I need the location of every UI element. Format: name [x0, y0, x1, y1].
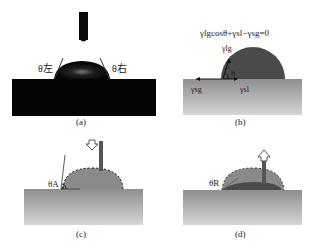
caption-a: (a): [76, 117, 86, 127]
theta-r-label: θR: [209, 178, 219, 188]
needle-c: [99, 141, 103, 171]
gamma-sl-label: γsl: [239, 85, 250, 94]
droplet-c-original: [63, 168, 123, 189]
theta-right-label: θ右: [112, 62, 127, 74]
panel-a: θ左 θ右 (a): [12, 12, 156, 127]
panel-d: θR (d): [183, 150, 302, 239]
caption-b: (b): [235, 117, 246, 127]
gamma-sg-label: γsg: [190, 85, 202, 94]
caption-d: (d): [235, 229, 246, 239]
caption-c: (c): [76, 229, 86, 239]
syringe-needle: [79, 12, 88, 40]
gamma-lg-label: γlg: [221, 44, 232, 53]
theta-left-label: θ左: [38, 62, 53, 74]
arrow-down-icon: [86, 140, 98, 150]
substrate-c: [24, 189, 143, 225]
photo-substrate: [12, 79, 156, 116]
theta-a-label: θA: [48, 179, 59, 189]
young-equation: γlgcosθ+γsl−γsg=0: [199, 28, 269, 38]
theta-label-b: θ: [231, 68, 235, 78]
panel-c: θA (c): [24, 140, 143, 239]
needle-d: [262, 158, 266, 184]
droplet-photo: [54, 61, 110, 79]
panel-b: γlgcosθ+γsl−γsg=0 γlg θ γsg γsl (b): [183, 28, 302, 127]
substrate-d: [183, 190, 302, 225]
arrow-up-icon: [258, 150, 270, 161]
contact-angle-figure: θ左 θ右 (a) γlgcosθ+γsl−γsg=0 γlg θ γsg γs…: [0, 0, 312, 250]
